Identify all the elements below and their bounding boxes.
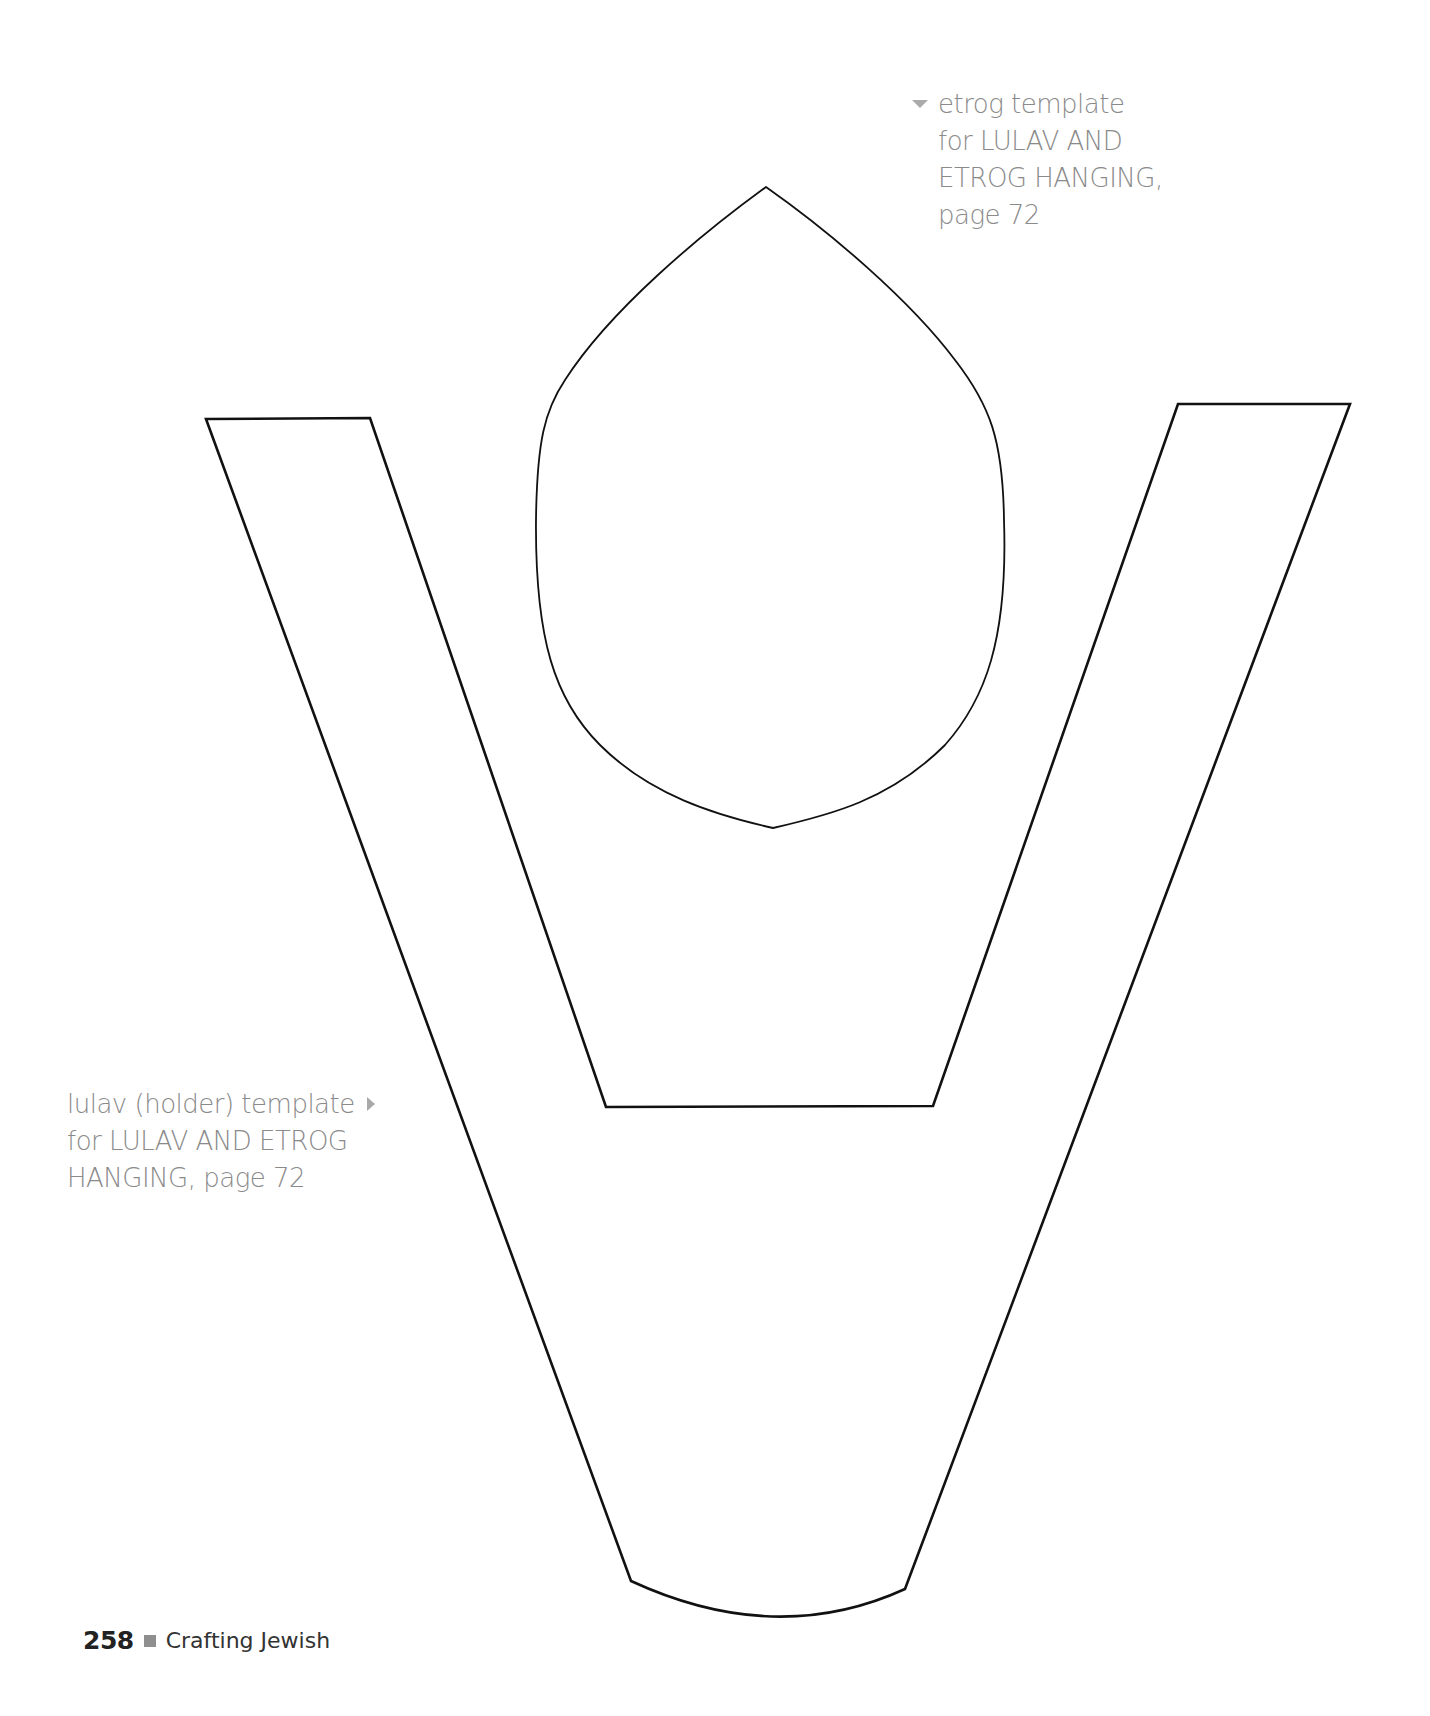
etrog-template-caption: etrog template for LULAV AND ETROG HANGI…: [938, 86, 1163, 234]
caption-line: for LULAV AND ETROG: [67, 1123, 375, 1160]
page-number: 258: [83, 1626, 134, 1655]
triangle-right-icon: [367, 1097, 375, 1111]
etrog-template-outline: [536, 187, 1004, 828]
lulav-template-caption: lulav (holder) template for LULAV AND ET…: [67, 1086, 375, 1197]
caption-line: ETROG HANGING,: [938, 160, 1163, 197]
caption-line-with-pointer: lulav (holder) template: [67, 1086, 375, 1123]
caption-line: page 72: [938, 197, 1163, 234]
book-title: Crafting Jewish: [166, 1628, 330, 1653]
caption-line: lulav (holder) template: [67, 1089, 355, 1119]
triangle-down-icon: [912, 100, 928, 108]
caption-line: for LULAV AND: [938, 123, 1163, 160]
lulav-holder-template-outline: [206, 404, 1350, 1617]
page-footer: 258 Crafting Jewish: [83, 1626, 330, 1655]
caption-line: HANGING, page 72: [67, 1160, 375, 1197]
book-page: etrog template for LULAV AND ETROG HANGI…: [0, 0, 1430, 1716]
caption-line: etrog template: [938, 86, 1163, 123]
gray-square-icon: [144, 1635, 156, 1647]
template-drawings: [0, 0, 1430, 1716]
